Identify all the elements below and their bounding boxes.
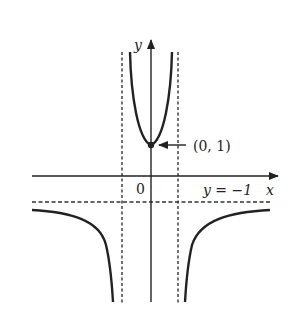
horizontal-asymptote-label: y = −1 [202,182,252,198]
curve-left-branch [32,210,113,302]
y-axis-label: y [133,37,143,53]
origin-label: 0 [136,181,145,197]
vertex-point [148,142,154,148]
function-graph: y (0, 1) 0 y = −1 x [0,0,294,319]
x-axis-label: x [266,182,274,198]
point-label: (0, 1) [193,138,231,154]
curve-right-branch [185,210,270,302]
